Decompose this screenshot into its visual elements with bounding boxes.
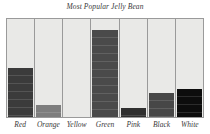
bar-cell-orange[interactable]	[35, 19, 63, 117]
bar-column-green	[92, 19, 117, 117]
bar-cell-pink[interactable]	[120, 19, 148, 117]
bar-column-white	[177, 19, 202, 117]
x-tick-label-white: White	[176, 119, 204, 132]
x-tick-label-green: Green	[91, 119, 119, 132]
bar-pink[interactable]	[121, 108, 146, 117]
x-axis-labels: Red Orange Yellow Green Pink Black White	[6, 119, 204, 132]
x-tick-label-red: Red	[6, 119, 34, 132]
bar-white[interactable]	[177, 89, 202, 117]
plot-area	[6, 18, 204, 118]
bar-column-yellow	[64, 19, 89, 117]
bar-column-pink	[121, 19, 146, 117]
x-tick-label-yellow: Yellow	[63, 119, 91, 132]
bar-column-black	[149, 19, 174, 117]
x-tick-label-orange: Orange	[34, 119, 62, 132]
bar-cell-yellow[interactable]	[63, 19, 91, 117]
bar-cell-white[interactable]	[176, 19, 203, 117]
bar-cell-red[interactable]	[7, 19, 35, 117]
bar-column-red	[8, 19, 33, 117]
bar-cell-black[interactable]	[148, 19, 176, 117]
bar-black[interactable]	[149, 93, 174, 118]
bar-cell-green[interactable]	[91, 19, 119, 117]
x-tick-label-pink: Pink	[119, 119, 147, 132]
bar-column-orange	[36, 19, 61, 117]
bar-orange[interactable]	[36, 105, 61, 117]
chart-figure: Most Popular Jelly Bean	[0, 0, 210, 134]
x-tick-label-black: Black	[147, 119, 175, 132]
bar-green[interactable]	[92, 30, 117, 117]
bar-red[interactable]	[8, 68, 33, 117]
chart-title: Most Popular Jelly Bean	[0, 2, 210, 12]
